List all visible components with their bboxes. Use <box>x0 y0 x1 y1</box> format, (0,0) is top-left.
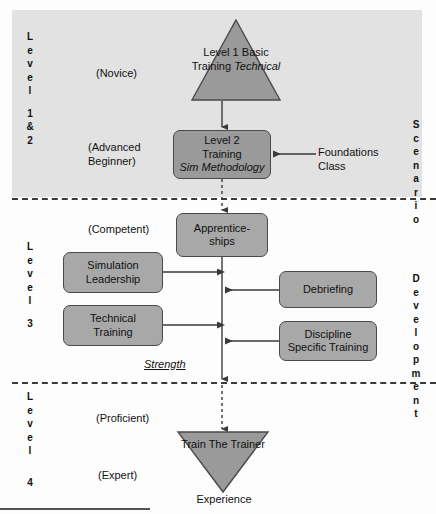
annotation-experience: Experience <box>178 492 270 506</box>
node-level-2-label: Level 2 Training Sim Methodology <box>180 134 265 175</box>
node-line: Simulation <box>86 259 140 273</box>
annotation-foundations-class: Foundations Class <box>318 145 379 173</box>
annotation-strength: Strength <box>144 357 186 371</box>
triangle-down-shape <box>176 430 270 494</box>
node-apprenticeships-label: Apprentice- ships <box>194 222 250 249</box>
node-line: Specific Training <box>288 341 369 355</box>
node-line: Apprentice- <box>194 222 250 236</box>
triangle-up-shape <box>190 18 282 102</box>
node-line: Discipline <box>288 328 369 342</box>
node-simulation-leadership-label: Simulation Leadership <box>86 259 140 286</box>
node-line: Level 2 <box>180 134 265 148</box>
node-line: Debriefing <box>303 283 353 297</box>
node-discipline-specific-training[interactable]: Discipline Specific Training <box>279 321 377 361</box>
node-technical-training[interactable]: Technical Training <box>63 305 163 346</box>
node-discipline-specific-training-label: Discipline Specific Training <box>288 328 369 355</box>
node-apprenticeships[interactable]: Apprentice- ships <box>176 213 268 257</box>
node-line: ships <box>194 235 250 249</box>
node-line-italic: Sim Methodology <box>180 161 265 175</box>
node-line: Technical <box>90 312 136 326</box>
node-debriefing[interactable]: Debriefing <box>279 271 377 308</box>
node-line: Leadership <box>86 273 140 287</box>
node-debriefing-label: Debriefing <box>303 283 353 297</box>
node-train-the-trainer[interactable]: Train The Trainer <box>176 430 270 494</box>
node-level-2-training[interactable]: Level 2 Training Sim Methodology <box>173 130 271 179</box>
node-simulation-leadership[interactable]: Simulation Leadership <box>63 252 163 293</box>
node-line: Training <box>90 326 136 340</box>
node-technical-training-label: Technical Training <box>90 312 136 339</box>
pathway-diagram: L e v e l 1 & 2 L e v e l 3 L e v e l 4 … <box>0 0 436 514</box>
node-level-1-basic-training[interactable]: Level 1 Basic Training Technical <box>190 18 282 102</box>
node-line: Training <box>180 148 265 162</box>
